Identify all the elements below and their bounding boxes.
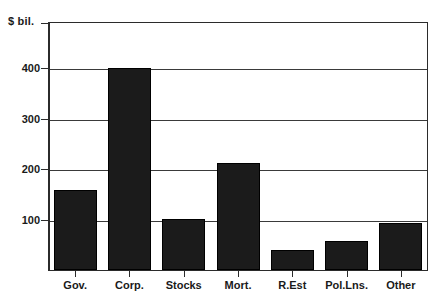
x-axis-tick-label: R.Est [278, 279, 306, 291]
y-axis-tick-mark [41, 119, 48, 120]
x-axis-tick-mark [292, 271, 293, 277]
y-axis-tick-label: 300 [6, 113, 40, 125]
y-axis-tick-mark [41, 220, 48, 221]
y-axis-tick-label: 400 [6, 62, 40, 74]
bar [271, 250, 314, 270]
x-axis-tick-label: Gov. [63, 279, 87, 291]
x-axis-tick-mark [238, 271, 239, 277]
x-axis-tick-label: Stocks [166, 279, 202, 291]
bar [325, 241, 368, 270]
y-axis-tick-label: 200 [6, 163, 40, 175]
x-axis-tick-label: Corp. [115, 279, 144, 291]
x-axis-tick-mark [129, 271, 130, 277]
bars-group [48, 22, 428, 271]
x-axis-tick-mark [401, 271, 402, 277]
x-axis-tick-label: Other [386, 279, 415, 291]
y-axis-tick-mark [41, 169, 48, 170]
bar [162, 219, 205, 270]
y-axis-unit-caption: $ bil. [8, 15, 34, 27]
y-axis-top-tick-mark [41, 23, 48, 24]
bar [108, 68, 151, 270]
x-axis-tick-mark [184, 271, 185, 277]
y-axis-tick-label: 100 [6, 214, 40, 226]
bar [217, 163, 260, 270]
x-axis-tick-mark [75, 271, 76, 277]
x-axis-tick-mark [347, 271, 348, 277]
bar-chart: $ bil. 100200300400 Gov.Corp.StocksMort.… [0, 0, 447, 305]
x-axis-tick-label: Pol.Lns. [325, 279, 368, 291]
bar [379, 223, 422, 270]
x-axis-tick-label: Mort. [225, 279, 252, 291]
y-axis-tick-mark [41, 68, 48, 69]
bar [54, 190, 97, 270]
